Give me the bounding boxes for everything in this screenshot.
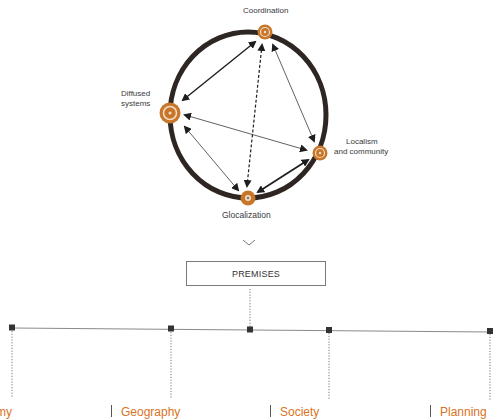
node-localism: [313, 146, 328, 161]
category-separator: [111, 405, 112, 417]
arrow-coordination-glocalization: [247, 45, 262, 186]
arrow-diffused-localism: [185, 115, 306, 150]
category-economy: Economy: [0, 405, 12, 419]
node-glocalization: [241, 191, 256, 206]
category-separator: [270, 405, 271, 417]
category-separator: [430, 405, 431, 417]
premises-box: PREMISES: [186, 261, 326, 286]
node-coordination: [258, 25, 273, 40]
category-society: Society: [280, 405, 319, 419]
label-localism: Localism and community: [334, 137, 388, 157]
category-planning: Planning: [440, 405, 487, 419]
label-glocalization: Glocalization: [222, 210, 271, 220]
arrow-coordination-diffused: [183, 42, 255, 100]
chevron-down-icon: [243, 240, 255, 245]
node-diffused-systems: [160, 103, 181, 124]
label-coordination: Coordination: [243, 6, 288, 16]
arrow-diffused-glocalization: [185, 127, 238, 190]
label-diffused-systems: Diffused systems: [121, 89, 150, 109]
category-geography: Geography: [121, 405, 180, 419]
